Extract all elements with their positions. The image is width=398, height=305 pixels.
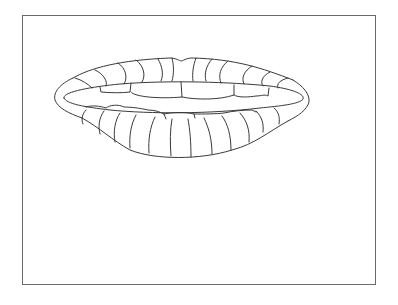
lips-illustration xyxy=(0,0,398,305)
lower-teeth xyxy=(86,105,256,119)
lower-lip-creases xyxy=(82,108,279,157)
upper-teeth xyxy=(100,82,269,99)
